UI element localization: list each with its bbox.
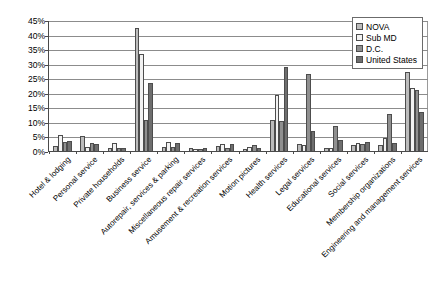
x-axis-tick-mark <box>76 151 77 154</box>
bar-group <box>239 21 266 151</box>
x-axis-tick-mark <box>49 151 50 154</box>
y-axis-tick-mark <box>45 79 48 80</box>
x-axis-label: Engineering and management services <box>320 155 424 259</box>
x-axis-tick-mark <box>374 151 375 154</box>
y-axis-tick-mark <box>45 108 48 109</box>
y-axis-tick-label: 35% <box>1 46 45 55</box>
bar <box>419 112 424 151</box>
bar <box>67 141 72 151</box>
y-axis-tick-label: 10% <box>1 118 45 127</box>
x-axis-tick-mark <box>211 151 212 154</box>
x-axis-tick-mark <box>347 151 348 154</box>
y-axis-tick-mark <box>45 50 48 51</box>
legend-swatch-icon <box>356 56 363 63</box>
bar-chart: 0%5%10%15%20%25%30%35%40%45% Hotel & lod… <box>0 0 447 307</box>
y-axis-tick-label: 20% <box>1 89 45 98</box>
x-axis-labels: Hotel & lodgingPersonal servicePrivate h… <box>48 155 428 305</box>
bar <box>284 67 289 151</box>
bar-group <box>157 21 184 151</box>
legend-label: D.C. <box>366 44 383 54</box>
legend-item: NOVA <box>356 21 417 32</box>
bar <box>175 143 180 151</box>
bar <box>94 144 99 151</box>
legend-label: NOVA <box>366 22 389 32</box>
bar <box>257 148 262 151</box>
legend-item: United States <box>356 54 417 65</box>
y-axis-tick-mark <box>45 94 48 95</box>
legend-item: Sub MD <box>356 32 417 43</box>
x-axis-tick-mark <box>130 151 131 154</box>
y-axis-tick-mark <box>45 65 48 66</box>
y-axis-tick-mark <box>45 21 48 22</box>
legend-label: Sub MD <box>366 33 397 43</box>
bar-group <box>130 21 157 151</box>
bar-group <box>49 21 76 151</box>
chart-legend: NOVASub MDD.C.United States <box>352 17 423 69</box>
y-axis-tick-mark <box>45 123 48 124</box>
bar <box>148 83 153 151</box>
bar <box>121 148 126 151</box>
legend-item: D.C. <box>356 43 417 54</box>
x-axis-tick-mark <box>266 151 267 154</box>
bar <box>230 144 235 151</box>
bar <box>203 148 208 151</box>
bar-group <box>184 21 211 151</box>
legend-swatch-icon <box>356 34 363 41</box>
bar-group <box>266 21 293 151</box>
x-axis-tick-mark <box>157 151 158 154</box>
x-axis-tick-mark <box>184 151 185 154</box>
y-axis-tick-mark <box>45 36 48 37</box>
y-axis-tick-label: 45% <box>1 17 45 26</box>
bar-group <box>293 21 320 151</box>
x-axis-tick-mark <box>239 151 240 154</box>
bar-group <box>320 21 347 151</box>
bar-group <box>211 21 238 151</box>
x-axis-tick-mark <box>401 151 402 154</box>
bar-group <box>76 21 103 151</box>
x-axis-tick-mark <box>320 151 321 154</box>
y-axis-tick-label: 0% <box>1 148 45 157</box>
legend-swatch-icon <box>356 45 363 52</box>
x-axis-tick-mark <box>293 151 294 154</box>
legend-label: United States <box>366 55 417 65</box>
y-axis-tick-mark <box>45 137 48 138</box>
y-axis-tick-label: 25% <box>1 75 45 84</box>
y-axis-tick-label: 40% <box>1 31 45 40</box>
bar-group <box>103 21 130 151</box>
y-axis-tick-label: 30% <box>1 60 45 69</box>
y-axis-tick-label: 5% <box>1 133 45 142</box>
y-axis-tick-mark <box>45 152 48 153</box>
bar <box>392 143 397 151</box>
bar <box>365 142 370 151</box>
bar <box>338 140 343 151</box>
legend-swatch-icon <box>356 23 363 30</box>
x-axis-tick-mark <box>103 151 104 154</box>
bar <box>311 131 316 151</box>
y-axis-tick-label: 15% <box>1 104 45 113</box>
